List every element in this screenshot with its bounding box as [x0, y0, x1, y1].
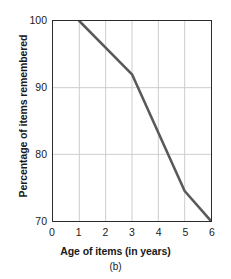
x-tick-label-0: 0: [44, 226, 60, 238]
x-tick-label-1: 1: [71, 226, 87, 238]
x-tick-label-6: 6: [204, 226, 220, 238]
x-tick-label-2: 2: [97, 226, 113, 238]
x-tick-label-3: 3: [124, 226, 140, 238]
plot-svg: [53, 21, 211, 221]
gridlines-group: [53, 21, 211, 221]
x-tick-label-5: 5: [177, 226, 193, 238]
y-axis-title: Percentage of items remembered: [15, 16, 31, 216]
data-line-series-1: [79, 21, 211, 221]
x-axis-title: Age of items (in years): [0, 245, 231, 257]
x-tick-label-4: 4: [151, 226, 167, 238]
plot-area: [52, 20, 212, 222]
y-tick-label-80: 80: [21, 149, 47, 160]
chart-figure: Percentage of items remembered 100 90 80…: [0, 0, 231, 279]
figure-caption: (b): [0, 261, 231, 272]
y-tick-label-90: 90: [21, 82, 47, 93]
y-tick-label-100: 100: [21, 15, 47, 26]
